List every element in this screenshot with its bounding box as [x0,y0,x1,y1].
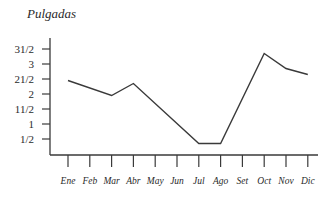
y-tick-label: 2 [29,88,35,100]
x-tick-label: Dic [300,176,316,186]
y-tick-label: 31/2 [14,43,34,55]
x-tick-label: Ago [212,176,229,186]
y-tick-label: 1/2 [20,133,34,145]
y-tick-label: 11/2 [15,103,34,115]
axes [50,38,318,155]
x-tick-label: Nov [277,176,294,186]
x-ticks: EneFebMarAbrMayJunJulAgoSetOctNovDic [60,155,316,186]
x-tick-label: Set [237,176,249,186]
x-tick-label: Abr [125,176,141,186]
x-tick-label: Mar [102,176,120,186]
x-tick-label: Oct [257,176,271,186]
x-tick-label: Feb [81,176,97,186]
y-tick-label: 21/2 [14,73,34,85]
x-tick-label: Jun [170,176,184,186]
data-line [68,54,308,144]
y-tick-label: 3 [29,58,35,70]
line-chart: 1/2111/2221/2331/2 EneFebMarAbrMayJunJul… [0,0,325,200]
x-tick-label: Jul [193,176,205,186]
x-tick-label: Ene [60,176,76,186]
y-tick-label: 1 [29,118,35,130]
y-ticks: 1/2111/2221/2331/2 [14,43,50,145]
x-tick-label: May [146,176,165,186]
